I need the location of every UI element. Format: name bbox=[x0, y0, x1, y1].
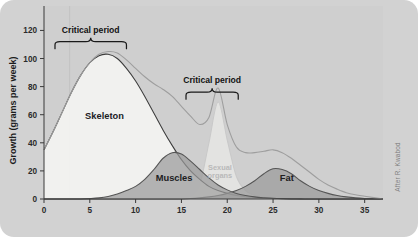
critical-period-label: Critical period bbox=[183, 75, 241, 85]
critical-period-label: Critical period bbox=[62, 25, 120, 35]
x-tick-label: 5 bbox=[88, 206, 93, 215]
series-label-sexual-organs: Sexualorgans bbox=[208, 163, 233, 181]
series-label-skeleton: Skeleton bbox=[85, 111, 124, 121]
credit-text: After R. Kwabod bbox=[394, 142, 401, 192]
y-tick-label: 40 bbox=[28, 139, 38, 148]
y-tick-label: 80 bbox=[28, 83, 38, 92]
figure-card: 02040608010012005101520253035Growth (gra… bbox=[0, 0, 418, 237]
x-tick-label: 30 bbox=[314, 206, 324, 215]
x-tick-label: 25 bbox=[268, 206, 278, 215]
y-tick-label: 20 bbox=[28, 167, 38, 176]
x-tick-label: 15 bbox=[177, 206, 187, 215]
y-tick-label: 120 bbox=[23, 26, 37, 35]
y-tick-label: 60 bbox=[28, 111, 38, 120]
y-tick-label: 100 bbox=[23, 55, 37, 64]
chart-plot-area: 02040608010012005101520253035Growth (gra… bbox=[0, 0, 418, 237]
y-tick-label: 0 bbox=[32, 195, 37, 204]
x-tick-label: 10 bbox=[131, 206, 141, 215]
growth-curves-chart: 02040608010012005101520253035Growth (gra… bbox=[0, 0, 418, 237]
series-label-muscles: Muscles bbox=[156, 173, 193, 183]
x-tick-label: 35 bbox=[360, 206, 370, 215]
x-tick-label: 20 bbox=[223, 206, 233, 215]
x-tick-label: 0 bbox=[42, 206, 47, 215]
y-axis-title: Growth (grams per week) bbox=[8, 56, 18, 164]
series-label-fat: Fat bbox=[280, 173, 294, 183]
